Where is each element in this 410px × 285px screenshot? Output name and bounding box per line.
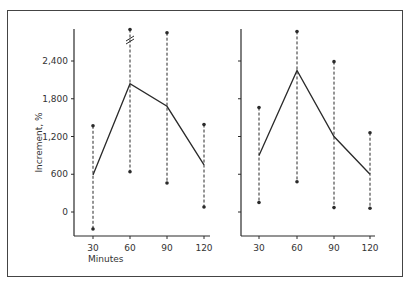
right-x-tick-label: 30 <box>253 243 265 253</box>
left-x-tick-label: 90 <box>161 243 173 253</box>
left-y-axis-title: Increment, % <box>34 112 44 173</box>
right-range-high-dot <box>368 131 372 135</box>
right-range-high-dot <box>257 106 261 110</box>
chart-canvas: 06001,2001,8002,400306090120Increment, %… <box>0 0 410 285</box>
left-y-tick-label: 0 <box>62 207 68 217</box>
right-range-low-dot <box>295 180 299 184</box>
left-range-low-dot <box>202 205 206 209</box>
left-x-tick-label: 60 <box>124 243 136 253</box>
left-x-axis-title: Minutes <box>88 254 124 264</box>
right-x-tick-label: 120 <box>361 243 378 253</box>
left-y-tick-label: 1,200 <box>42 132 68 142</box>
left-mean-line <box>93 84 204 175</box>
left-range-high-dot <box>128 28 132 32</box>
right-range-high-dot <box>332 60 336 64</box>
left-range-high-dot <box>165 31 169 35</box>
right-range-high-dot <box>295 30 299 34</box>
left-range-high-dot <box>91 124 95 128</box>
left-range-low-dot <box>128 170 132 174</box>
left-range-low-dot <box>91 227 95 231</box>
left-range-low-dot <box>165 181 169 185</box>
right-range-low-dot <box>257 201 261 205</box>
left-y-tick-label: 1,800 <box>42 94 68 104</box>
right-range-low-dot <box>368 206 372 210</box>
left-y-tick-label: 2,400 <box>42 56 68 66</box>
left-y-tick-label: 600 <box>51 169 68 179</box>
right-mean-line <box>259 70 370 174</box>
right-range-low-dot <box>332 206 336 210</box>
right-x-tick-label: 60 <box>291 243 303 253</box>
right-x-tick-label: 90 <box>328 243 340 253</box>
left-x-tick-label: 120 <box>195 243 212 253</box>
left-x-tick-label: 30 <box>87 243 99 253</box>
left-range-high-dot <box>202 123 206 127</box>
